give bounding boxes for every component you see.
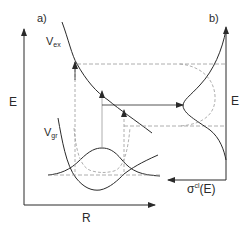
cross-section-dashed (180, 64, 215, 126)
reflection-principle-diagram: a) b) E E R Vex Vgr σcl(E) (0, 0, 250, 228)
sigma-tail: (E) (199, 182, 215, 196)
r-axis-label: R (82, 212, 91, 224)
energy-axis-label-right: E (231, 95, 239, 107)
panel-b-label: b) (209, 13, 219, 24)
excited-potential-curve (62, 22, 152, 133)
panel-a-label: a) (37, 13, 47, 24)
vex-sub: ex (53, 41, 60, 48)
ground-potential-label: Vgr (44, 127, 58, 139)
excited-potential-label: Vex (46, 36, 61, 48)
ground-potential-curve (58, 118, 158, 190)
energy-axis-label-left: E (9, 96, 17, 108)
cross-section-curve (183, 30, 226, 160)
vgr-sub: gr (51, 132, 57, 139)
panel-a-axes (24, 29, 155, 205)
panel-b-axes (168, 27, 226, 180)
cross-section-axis-label: σcl(E) (187, 182, 215, 195)
